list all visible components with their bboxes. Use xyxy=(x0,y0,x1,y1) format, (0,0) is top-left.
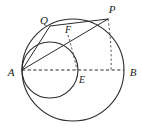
point-label-P: P xyxy=(108,3,116,15)
segment-AQ xyxy=(22,26,50,70)
point-label-Q: Q xyxy=(40,14,48,26)
geometry-figure: A B P Q E F xyxy=(0,0,142,134)
segment-P-perpendicular-dashed xyxy=(108,19,111,70)
point-label-B: B xyxy=(130,66,137,78)
point-label-A: A xyxy=(7,66,15,78)
geometry-canvas: A B P Q E F xyxy=(0,0,142,134)
point-label-F: F xyxy=(64,24,72,35)
point-label-E: E xyxy=(78,74,85,85)
segment-QP xyxy=(50,19,108,26)
